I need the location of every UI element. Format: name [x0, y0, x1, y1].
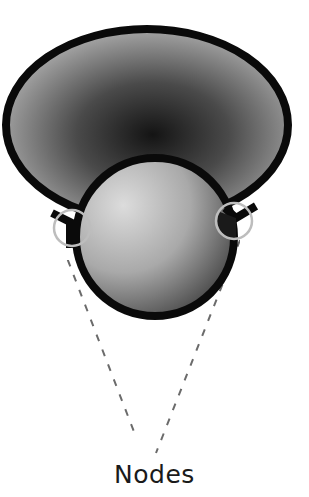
nodes-diagram [0, 0, 309, 497]
nodes-label: Nodes [0, 460, 309, 489]
inner-shape [76, 158, 234, 316]
